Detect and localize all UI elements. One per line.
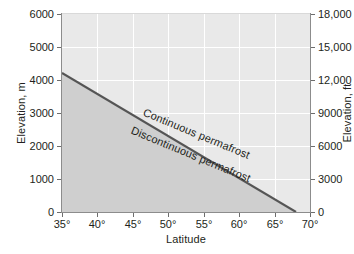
tick-right	[311, 14, 315, 15]
tick-bottom	[97, 213, 98, 217]
plot-border-top	[61, 13, 311, 14]
tick-bottom	[168, 213, 169, 217]
axis-line-bottom	[61, 212, 311, 213]
tick-right	[311, 80, 315, 81]
tick-label-bottom: 45°	[113, 218, 153, 231]
tick-label-bottom: 55°	[184, 218, 224, 231]
tick-left	[57, 14, 61, 15]
tick-bottom	[239, 213, 240, 217]
tick-bottom	[275, 213, 276, 217]
tick-label-bottom: 35°	[42, 218, 82, 231]
tick-label-bottom: 40°	[77, 218, 117, 231]
tick-right	[311, 212, 315, 213]
tick-left	[57, 113, 61, 114]
tick-left	[57, 212, 61, 213]
tick-left	[57, 80, 61, 81]
tick-right	[311, 179, 315, 180]
tick-left	[57, 47, 61, 48]
plot-area: Continuous permafrost Discontinuous perm…	[62, 14, 310, 212]
tick-label-bottom: 70°	[290, 218, 330, 231]
axis-line-left	[61, 13, 62, 213]
permafrost-boundary-series	[62, 14, 310, 212]
tick-right	[311, 146, 315, 147]
tick-right	[311, 113, 315, 114]
tick-label-bottom: 50°	[148, 218, 188, 231]
tick-bottom	[62, 213, 63, 217]
y-axis-title-left: Elevation, m	[14, 14, 28, 212]
y-axis-title-right: Elevation, ft	[340, 14, 354, 212]
tick-label-bottom: 65°	[255, 218, 295, 231]
tick-bottom	[204, 213, 205, 217]
permafrost-elevation-latitude-chart: Continuous permafrost Discontinuous perm…	[0, 0, 354, 254]
tick-bottom	[133, 213, 134, 217]
tick-left	[57, 146, 61, 147]
tick-label-bottom: 60°	[219, 218, 259, 231]
x-axis-title: Latitude	[62, 233, 310, 245]
tick-right	[311, 47, 315, 48]
tick-bottom	[310, 213, 311, 217]
tick-left	[57, 179, 61, 180]
